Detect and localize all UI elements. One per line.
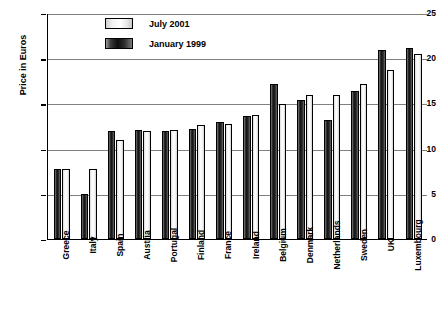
x-axis-label: Denmark xyxy=(305,227,315,263)
bar xyxy=(297,100,305,239)
bar xyxy=(116,140,124,239)
bar xyxy=(270,84,278,239)
x-axis-label-cell: Denmark xyxy=(291,243,318,311)
x-axis-label-cell: Portugal xyxy=(156,243,183,311)
bar-group xyxy=(75,14,102,239)
x-axis-label: Austria xyxy=(142,230,152,259)
y-axis-tick-mark xyxy=(41,195,46,196)
legend-label: July 2001 xyxy=(149,19,190,29)
bar-group xyxy=(346,14,373,239)
plot-area xyxy=(47,14,427,240)
x-axis-label: Luxembourg xyxy=(413,219,423,270)
bar-group xyxy=(238,14,265,239)
bar xyxy=(216,122,224,239)
x-axis-label: Ireland xyxy=(251,231,261,259)
x-axis-label: Netherlands xyxy=(332,220,342,269)
legend-swatch-july-2001-icon xyxy=(105,18,133,29)
bar xyxy=(162,131,170,239)
bar xyxy=(108,131,116,239)
y-axis-tick-mark xyxy=(41,104,46,105)
bar xyxy=(243,116,251,239)
bar xyxy=(143,131,151,239)
bar-group xyxy=(400,14,427,239)
y-axis-tick-mark xyxy=(41,150,46,151)
x-axis-label-cell: Austria xyxy=(128,243,155,311)
bar-group xyxy=(48,14,75,239)
x-axis-label: Sweden xyxy=(359,229,369,261)
x-axis-label-cell: Greece xyxy=(47,243,74,311)
legend-item: January 1999 xyxy=(105,36,230,51)
bar xyxy=(54,169,62,239)
bar-chart: Price in Euros 0510152025 GreeceItalySpa… xyxy=(0,0,436,311)
x-axis-label: Belgium xyxy=(278,228,288,262)
bar xyxy=(324,120,332,239)
x-axis-label-cell: France xyxy=(210,243,237,311)
bar xyxy=(81,194,89,239)
bar xyxy=(306,95,314,239)
x-axis-label: Finland xyxy=(196,230,206,260)
bar xyxy=(225,124,233,239)
legend: July 2001 January 1999 xyxy=(105,16,230,56)
bar xyxy=(252,115,260,239)
bar-group xyxy=(265,14,292,239)
x-axis-label: Greece xyxy=(61,231,71,260)
bar xyxy=(378,50,386,239)
y-axis-tick-mark xyxy=(41,14,46,15)
x-axis-label-cell: Ireland xyxy=(237,243,264,311)
bar xyxy=(135,130,143,239)
bar xyxy=(414,54,422,239)
x-axis-label: Spain xyxy=(115,233,125,256)
x-axis-label-cell: Luxembourg xyxy=(400,243,427,311)
x-axis-label: UK xyxy=(386,239,396,251)
x-axis-label-cell: Spain xyxy=(101,243,128,311)
legend-swatch-january-1999-icon xyxy=(105,38,133,49)
bar xyxy=(62,169,70,239)
x-axis-label-cell: Finland xyxy=(183,243,210,311)
bar xyxy=(197,125,205,239)
bar xyxy=(387,70,395,239)
x-axis-label-cell: Belgium xyxy=(264,243,291,311)
bar xyxy=(170,130,178,239)
bar xyxy=(89,169,97,239)
x-axis-label-cell: Netherlands xyxy=(318,243,345,311)
bar xyxy=(189,129,197,239)
bar xyxy=(406,48,414,239)
bar xyxy=(351,91,359,239)
bar-group xyxy=(292,14,319,239)
x-axis-label-cell: Italy xyxy=(74,243,101,311)
y-axis-tick-mark xyxy=(41,240,46,241)
y-axis-tick-mark xyxy=(41,59,46,60)
x-axis-label: France xyxy=(223,231,233,259)
bar xyxy=(360,84,368,239)
x-axis-label: Italy xyxy=(88,236,98,253)
x-axis-label-cell: Sweden xyxy=(346,243,373,311)
bar-group xyxy=(373,14,400,239)
x-axis-category-labels: GreeceItalySpainAustriaPortugalFinlandFr… xyxy=(47,243,427,311)
y-axis-title: Price in Euros xyxy=(18,20,28,110)
x-axis-label-cell: UK xyxy=(373,243,400,311)
bar xyxy=(333,95,341,239)
bar xyxy=(279,104,287,239)
bar-group xyxy=(319,14,346,239)
x-axis-label: Portugal xyxy=(169,228,179,262)
legend-item: July 2001 xyxy=(105,16,230,31)
legend-label: January 1999 xyxy=(149,39,206,49)
